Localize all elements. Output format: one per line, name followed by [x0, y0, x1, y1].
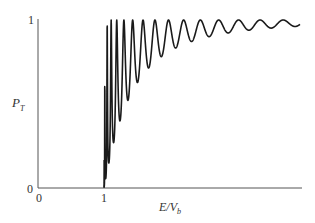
- transmission-chart: [0, 0, 315, 223]
- x-axis-label-main: E/V: [159, 200, 177, 214]
- y-axis-label-main: P: [12, 95, 20, 110]
- x-axis-label-sub: b: [177, 207, 181, 216]
- y-tick-1-label: 1: [28, 14, 34, 26]
- y-tick-0-label: 0: [27, 183, 33, 195]
- x-tick-0-label: 0: [36, 192, 42, 204]
- y-axis-label-sub: T: [20, 104, 24, 113]
- x-tick-1-label: 1: [101, 192, 107, 204]
- x-axis-label: E/Vb: [159, 201, 181, 216]
- y-axis-label: PT: [12, 96, 24, 113]
- transmission-curve: [104, 20, 300, 187]
